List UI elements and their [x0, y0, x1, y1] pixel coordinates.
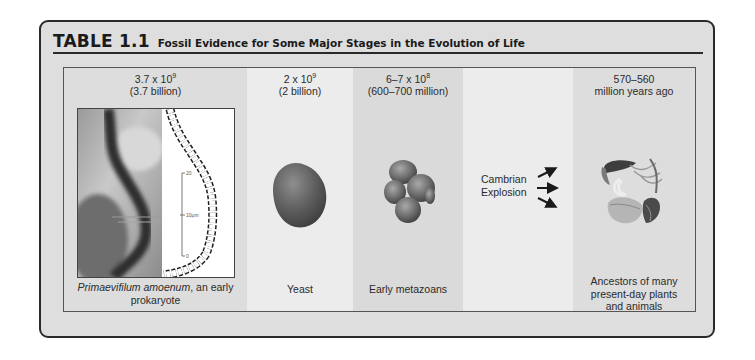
stage-date: 570–560 million years ago	[573, 73, 695, 97]
title-divider	[53, 52, 703, 54]
stage-column-yeast: 2 x 109 (2 billion) Yeast	[247, 68, 353, 311]
cambrian-explosion-label: Cambrian Explosion	[481, 173, 527, 198]
table-caption: Fossil Evidence for Some Major Stages in…	[158, 37, 525, 49]
scale-bar-bottom: 0	[186, 253, 189, 259]
stage-date: 6–7 x 108 (600–700 million)	[353, 73, 463, 97]
stage-date: 3.7 x 109 (3.7 billion)	[64, 73, 247, 97]
prokaryote-fossil-photo-and-drawing-icon: 20 10μm 0	[77, 108, 235, 278]
scale-bar-top: 20	[186, 170, 192, 176]
table-number: TABLE 1.1	[53, 31, 150, 51]
stage-column-plants-animals: 570–560 million years ago Ancestors of m…	[573, 68, 695, 311]
stage-column-metazoans: 6–7 x 108 (600–700 million) Early metazo…	[353, 68, 463, 311]
scale-bar-mid: 10μm	[186, 212, 199, 218]
table-title: TABLE 1.1Fossil Evidence for Some Major …	[53, 31, 701, 53]
diverging-arrows-icon	[536, 165, 564, 211]
stage-caption: Ancestors of many present-day plants and…	[573, 275, 695, 313]
metazoan-cell-cluster-icon	[383, 158, 437, 228]
yeast-cell-icon	[271, 160, 329, 230]
stage-caption: Yeast	[247, 283, 353, 296]
evolution-stages-table: 3.7 x 109 (3.7 billion)	[63, 67, 696, 312]
stage-column-prokaryote: 3.7 x 109 (3.7 billion)	[64, 68, 247, 311]
stage-caption: Early metazoans	[353, 283, 463, 296]
early-plants-animals-illustration-icon	[600, 153, 670, 233]
stage-date: 2 x 109 (2 billion)	[247, 73, 353, 97]
table-frame: TABLE 1.1Fossil Evidence for Some Major …	[39, 20, 715, 338]
stage-caption: Primaevifilum amoenum, an early prokaryo…	[64, 281, 247, 306]
stage-column-cambrian: Cambrian Explosion	[463, 68, 573, 311]
